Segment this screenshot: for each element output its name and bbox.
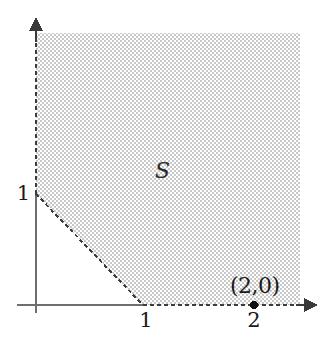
x-axis-tick-label-1: 1 [136,310,156,331]
y-axis-tick-label-1: 1 [12,183,30,204]
region-label-s: S [155,160,170,182]
region-plot-figure: 1 1 2 (2,0) S [0,0,327,342]
x-axis-tick-label-2: 2 [244,310,264,331]
point-coordinate-label-2-0: (2,0) [230,275,280,297]
